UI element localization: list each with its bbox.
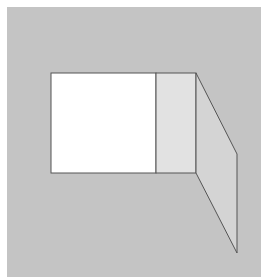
opening-rectangle: [51, 73, 156, 173]
inner-side-panel: [156, 73, 196, 173]
perspective-opening-diagram: [0, 0, 263, 280]
